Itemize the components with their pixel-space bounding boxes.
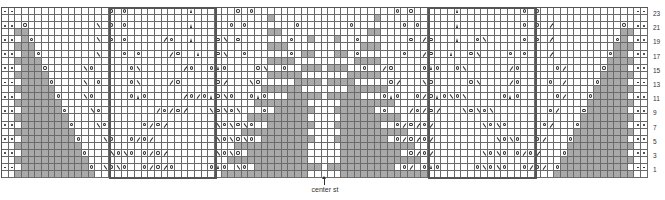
knit-cell [9,129,16,136]
no-stitch-cell [22,157,29,164]
knit-cell [122,171,129,178]
knit-cell [528,51,535,58]
yarn-over-icon [82,150,89,157]
knit-cell [182,122,189,129]
no-stitch-cell [375,15,382,22]
knit-cell [521,114,528,121]
knit-cell [528,136,535,143]
knit-cell [188,164,195,171]
yarn-over-icon [588,93,595,100]
knit-cell [35,8,42,15]
knit-cell [521,43,528,50]
yarn-over-icon [175,107,182,114]
knit-cell [475,15,482,22]
knit-cell [535,171,542,178]
yarn-over-icon [415,22,422,29]
knit-cell [155,114,162,121]
no-stitch-cell [275,150,282,157]
knit-cell [561,122,568,129]
knit-cell [381,22,388,29]
no-stitch-cell [235,171,242,178]
no-stitch-cell [601,122,608,129]
knit-cell [275,79,282,86]
knit-cell [148,79,155,86]
knit-cell [521,100,528,107]
no-stitch-cell [335,122,342,129]
knit-cell [355,8,362,15]
knit-cell [35,22,42,29]
purl-dot-icon [2,22,9,29]
purl-dot-icon [2,164,9,171]
knit-cell [408,93,415,100]
no-stitch-cell [275,86,282,93]
knit-cell [521,93,528,100]
no-stitch-cell [268,100,275,107]
yarn-over-icon [295,22,302,29]
knit-cell [461,43,468,50]
k2tog-icon [541,136,548,143]
no-stitch-cell [614,150,621,157]
knit-cell [2,58,9,65]
knit-cell [215,86,222,93]
no-stitch-cell [315,79,322,86]
knit-cell [175,171,182,178]
knit-cell [315,143,322,150]
knit-cell [435,114,442,121]
knit-cell [15,36,22,43]
knit-cell [155,58,162,65]
knit-cell [62,86,69,93]
knit-cell [188,150,195,157]
knit-cell [561,43,568,50]
no-stitch-cell [335,107,342,114]
no-stitch-cell [628,114,635,121]
knit-cell [128,107,135,114]
knit-cell [368,51,375,58]
ssk-icon [475,79,482,86]
knit-cell [375,51,382,58]
knit-cell [468,65,475,72]
knit-cell [468,29,475,36]
knit-cell [95,114,102,121]
ssk-icon [228,136,235,143]
center-stitch-cell [322,8,329,15]
no-stitch-cell [574,150,581,157]
knit-cell [195,79,202,86]
knit-cell [554,150,561,157]
ssk-icon [475,51,482,58]
knit-cell [641,58,648,65]
yarn-over-icon [215,79,222,86]
knit-cell [228,164,235,171]
knit-cell [568,72,575,79]
knit-cell [428,43,435,50]
knit-cell [95,43,102,50]
knit-cell [308,22,315,29]
knit-cell [208,22,215,29]
knit-cell [302,15,309,22]
no-stitch-cell [381,100,388,107]
center-arrow-icon [324,177,325,185]
no-stitch-cell [282,72,289,79]
knit-cell [89,122,96,129]
knit-cell [515,8,522,15]
knit-cell [481,100,488,107]
knit-cell [341,22,348,29]
no-stitch-cell [242,143,249,150]
knit-cell [128,100,135,107]
no-stitch-cell [22,93,29,100]
center-stitch-cell [322,65,329,72]
center-stitch-cell [322,150,329,157]
knit-cell [15,107,22,114]
yarn-over-icon [521,36,528,43]
knit-cell [641,114,648,121]
k2tog-icon [508,65,515,72]
no-stitch-cell [268,143,275,150]
knit-cell [488,157,495,164]
knit-cell [115,72,122,79]
knit-cell [89,8,96,15]
no-stitch-cell [242,157,249,164]
knit-cell [82,8,89,15]
knit-cell [435,171,442,178]
knit-cell [315,122,322,129]
knit-cell [122,136,129,143]
yarn-over-icon [348,22,355,29]
